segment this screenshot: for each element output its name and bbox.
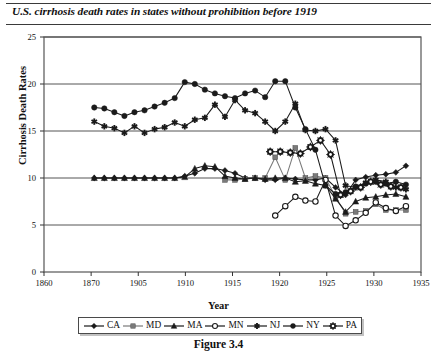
marker-asterisk <box>91 118 97 124</box>
legend-label-CA: CA <box>106 321 120 330</box>
marker-circle <box>273 78 278 83</box>
marker-crossed-circle <box>276 147 284 155</box>
marker-crossed-circle <box>346 187 354 195</box>
figure-container: U.S. cirrhosis death rates in states wit… <box>0 0 437 356</box>
marker-circle <box>152 104 157 109</box>
marker-crossed-circle <box>387 182 395 190</box>
x-tick-label-1915: 1915 <box>213 278 253 288</box>
marker-circle <box>303 126 308 131</box>
marker-open-circle <box>343 223 348 228</box>
x-tick-label-1920: 1920 <box>260 278 300 288</box>
y-tick-label-5: 5 <box>14 220 36 230</box>
marker-circle <box>112 110 117 115</box>
marker-crossed-circle <box>356 183 364 191</box>
marker-circle <box>291 323 296 328</box>
marker-diamond <box>393 169 399 175</box>
series-line-CA <box>94 166 406 195</box>
marker-crossed-circle <box>316 136 324 144</box>
marker-circle <box>122 113 127 118</box>
legend-item-PA[interactable]: PA <box>322 320 357 332</box>
chart-legend: CAMDMAMNNJNYPA <box>78 317 362 334</box>
marker-open-circle <box>383 205 388 210</box>
marker-square <box>313 174 318 179</box>
marker-open-circle <box>213 323 218 328</box>
marker-circle <box>202 87 207 92</box>
legend-item-MA[interactable]: MA <box>163 320 202 332</box>
marker-circle <box>222 94 227 99</box>
marker-open-circle <box>403 204 408 209</box>
marker-open-circle <box>303 198 308 203</box>
marker-square <box>131 323 135 327</box>
marker-crossed-circle <box>367 178 375 186</box>
marker-asterisk <box>132 123 138 129</box>
title-rule-top <box>6 3 431 4</box>
legend-marker-NJ <box>246 320 268 332</box>
marker-circle <box>132 110 137 115</box>
legend-marker-MD <box>122 320 144 332</box>
marker-circle <box>102 106 107 111</box>
legend-label-PA: PA <box>345 321 357 330</box>
marker-crossed-circle <box>326 150 334 158</box>
marker-crossed-circle <box>377 180 385 188</box>
legend-item-CA[interactable]: CA <box>83 320 120 332</box>
y-tick-label-15: 15 <box>14 126 36 136</box>
marker-square <box>273 155 278 160</box>
marker-circle <box>323 183 328 188</box>
legend-label-MN: MN <box>227 321 243 330</box>
marker-open-circle <box>333 213 338 218</box>
x-tick-label-1870: 1870 <box>71 278 111 288</box>
chart-plot-area <box>0 28 437 300</box>
legend-marker-NY <box>282 320 304 332</box>
legend-item-NJ[interactable]: NJ <box>246 320 280 332</box>
x-tick-label-1930: 1930 <box>354 278 394 288</box>
y-axis-label: Cirrhosis Death Rates <box>17 46 28 186</box>
marker-circle <box>262 94 267 99</box>
marker-circle <box>92 105 97 110</box>
x-tick-label-1935: 1935 <box>401 278 437 288</box>
y-tick-label-20: 20 <box>14 79 36 89</box>
marker-diamond <box>383 171 389 177</box>
legend-item-MD[interactable]: MD <box>122 320 161 332</box>
x-tick-label-1860: 1860 <box>24 278 64 288</box>
series-line-MN <box>275 180 406 226</box>
legend-label-MA: MA <box>186 321 202 330</box>
marker-diamond <box>91 323 96 328</box>
x-tick-label-1925: 1925 <box>307 278 347 288</box>
marker-open-circle <box>363 210 368 215</box>
marker-crossed-circle <box>296 149 304 157</box>
marker-circle <box>212 91 217 96</box>
marker-open-circle <box>313 199 318 204</box>
legend-item-MN[interactable]: MN <box>204 320 243 332</box>
marker-circle <box>172 95 177 100</box>
marker-circle <box>252 88 257 93</box>
marker-circle <box>393 179 398 184</box>
marker-crossed-circle <box>329 322 337 330</box>
marker-crossed-circle <box>306 143 314 151</box>
legend-marker-MN <box>204 320 226 332</box>
title-rule-bottom <box>6 24 431 25</box>
legend-label-NJ: NJ <box>269 321 280 330</box>
marker-diamond <box>403 163 409 169</box>
marker-circle <box>242 91 247 96</box>
x-axis-label: Year <box>0 300 437 311</box>
series-line-NY <box>94 81 406 194</box>
legend-label-MD: MD <box>145 321 161 330</box>
marker-circle <box>192 81 197 86</box>
marker-circle <box>283 78 288 83</box>
x-tick-label-1905: 1905 <box>118 278 158 288</box>
marker-open-circle <box>273 213 278 218</box>
marker-asterisk <box>182 123 188 129</box>
marker-crossed-circle <box>266 147 274 155</box>
marker-square <box>293 146 298 151</box>
marker-circle <box>232 95 237 100</box>
y-tick-label-25: 25 <box>14 32 36 42</box>
marker-square <box>353 209 358 214</box>
series-CA <box>91 163 408 198</box>
legend-marker-PA <box>322 320 344 332</box>
legend-item-NY[interactable]: NY <box>282 320 320 332</box>
marker-circle <box>142 108 147 113</box>
marker-circle <box>293 105 298 110</box>
marker-asterisk <box>172 119 178 125</box>
marker-crossed-circle <box>286 148 294 156</box>
figure-caption: Figure 3.4 <box>0 338 437 350</box>
